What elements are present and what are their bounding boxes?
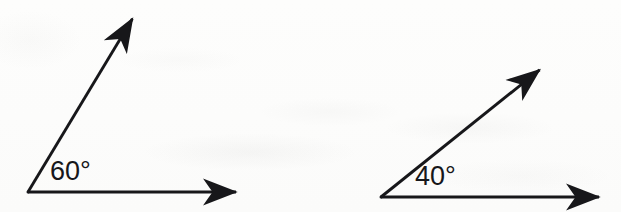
- angle-40-slanted-ray: [381, 70, 540, 197]
- angle-diagram-canvas: [0, 0, 621, 212]
- angle-figure-sheet: 60° 40°: [0, 0, 621, 212]
- angle-measure-label-40: 40°: [415, 163, 456, 190]
- angle-measure-label-60: 60°: [50, 158, 91, 185]
- angle-40-vertex: [380, 196, 383, 199]
- angle-60-vertex: [27, 191, 30, 194]
- angle-group-40: [380, 70, 600, 199]
